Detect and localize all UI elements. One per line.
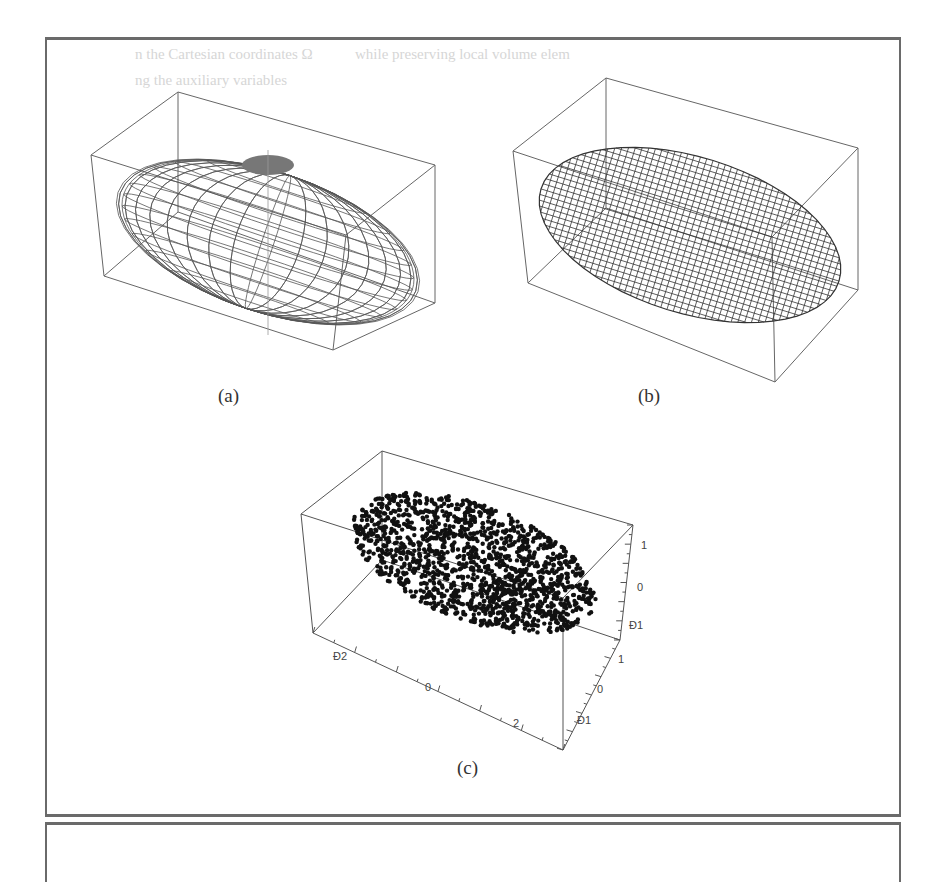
z-tick-0: 0 bbox=[637, 581, 643, 593]
x-tick-neg2: Ð2 bbox=[333, 650, 347, 662]
z-tick-neg1: Ð1 bbox=[629, 619, 643, 631]
panel-a-mesh bbox=[116, 150, 419, 335]
x-tick-0: 0 bbox=[425, 681, 431, 693]
y-tick-neg1: Ð1 bbox=[577, 714, 591, 726]
x-tick-2: 2 bbox=[513, 717, 519, 729]
panel-b-mesh bbox=[539, 147, 841, 322]
caption-b: (b) bbox=[638, 385, 660, 407]
caption-c: (c) bbox=[457, 757, 478, 779]
y-tick-0: 0 bbox=[597, 683, 603, 695]
z-tick-1: 1 bbox=[641, 539, 647, 551]
caption-a: (a) bbox=[218, 385, 239, 407]
y-tick-1: 1 bbox=[618, 653, 624, 665]
